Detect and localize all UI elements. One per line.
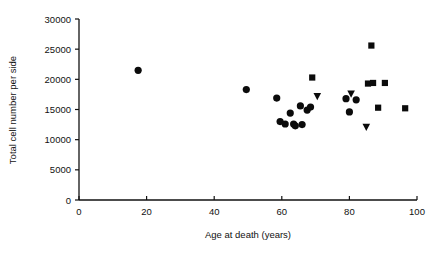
y-tick-label: 30000 (45, 14, 71, 25)
x-axis-title: Age at death (years) (205, 229, 291, 240)
y-tick-label: 20000 (45, 74, 71, 85)
data-point-square (382, 80, 388, 86)
y-tick-label: 25000 (45, 44, 71, 55)
data-point-circle (353, 96, 360, 103)
y-tick-labels: 050001000015000200002500030000 (45, 14, 71, 206)
axes-group (79, 19, 417, 200)
x-tick-label: 80 (344, 206, 355, 217)
data-point-circle (273, 94, 280, 101)
data-point-square (402, 105, 408, 111)
x-tick-label: 60 (277, 206, 288, 217)
x-tick-label: 0 (76, 206, 81, 217)
data-markers-group (135, 42, 409, 130)
y-tick-label: 0 (66, 195, 71, 206)
data-point-circle (243, 86, 250, 93)
scatter-plot-figure: 050001000015000200002500030000 020406080… (0, 0, 435, 268)
data-point-circle (342, 95, 349, 102)
data-point-circle (135, 67, 142, 74)
data-point-triangle (313, 93, 321, 100)
data-point-circle (297, 102, 304, 109)
y-axis-title: Total cell number per side (7, 56, 18, 164)
data-point-circle (346, 108, 353, 115)
data-point-circle (287, 110, 294, 117)
x-tick-label: 40 (209, 206, 220, 217)
data-point-circle (307, 103, 314, 110)
y-tick-label: 5000 (50, 164, 71, 175)
data-point-circle (282, 120, 289, 127)
x-tick-label: 20 (141, 206, 152, 217)
y-tick-label: 10000 (45, 134, 71, 145)
data-point-square (368, 42, 374, 48)
data-point-square (370, 80, 376, 86)
tick-marks-group (75, 19, 417, 200)
data-point-square (375, 105, 381, 111)
plot-svg: 050001000015000200002500030000 020406080… (0, 0, 435, 268)
data-point-circle (292, 122, 299, 129)
x-tick-labels: 020406080100 (76, 206, 425, 217)
y-tick-label: 15000 (45, 104, 71, 115)
data-point-circle (298, 121, 305, 128)
data-point-triangle (363, 124, 371, 131)
x-tick-label: 100 (409, 206, 425, 217)
data-point-square (309, 74, 315, 80)
